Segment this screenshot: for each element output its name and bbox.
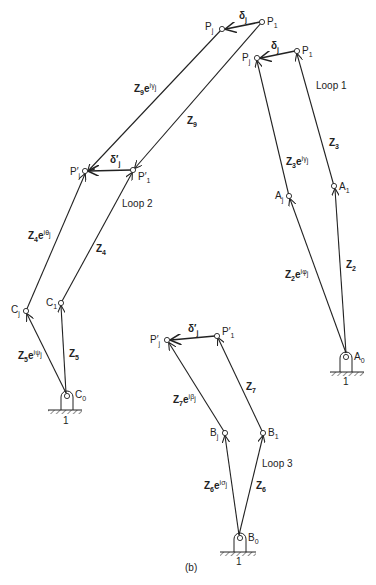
- label-pj-right: Pj: [242, 52, 251, 66]
- loop-1-label: Loop 1: [316, 80, 347, 91]
- joint-cj: [23, 308, 28, 313]
- label-z2: Z2: [346, 259, 356, 272]
- joint-pj-prime-mid: [82, 168, 87, 173]
- label-delta-j-prime-mid: δ′j: [110, 154, 120, 168]
- label-c0: C0: [75, 389, 86, 402]
- label-b1: B1: [268, 427, 279, 440]
- joint-aj: [286, 193, 291, 198]
- label-z7: Z7: [246, 381, 256, 394]
- loop-1-group: [254, 48, 364, 376]
- z4-vector: [61, 173, 132, 303]
- label-a1: A1: [339, 181, 350, 194]
- label-aj: Aj: [275, 190, 284, 204]
- label-z4: Z4: [96, 243, 106, 256]
- label-delta-j-prime-bot: δ′j: [188, 323, 198, 337]
- loop-3-label: Loop 3: [262, 458, 293, 469]
- joint-p1-right: [294, 48, 299, 53]
- label-z7-e-beta: Z7eiβj: [173, 393, 196, 407]
- label-p1-prime-mid: P′1: [138, 171, 151, 184]
- joint-p1-prime-mid: [130, 167, 135, 172]
- label-z3-e-gamma: Z3eiγj: [286, 155, 309, 169]
- label-z6-e-sigma: Z6eiσj: [204, 479, 227, 493]
- label-cj: Cj: [11, 304, 20, 318]
- joint-p1-prime-bot: [214, 333, 219, 338]
- joint-a1: [331, 183, 336, 188]
- label-z2-e-phi: Z2eiφj: [285, 268, 309, 282]
- label-bj: Bj: [210, 427, 219, 441]
- loop-2-label: Loop 2: [122, 198, 153, 209]
- label-c1: C1: [46, 297, 57, 310]
- label-b0: B0: [248, 532, 259, 545]
- z3-vector: [297, 54, 334, 186]
- z9-vector-group: [88, 19, 265, 171]
- figure-caption: (b): [185, 562, 197, 573]
- loop-2-group: [23, 167, 135, 414]
- joint-pj-top: [219, 26, 224, 31]
- delta-j-top-vector: [226, 22, 260, 29]
- ground-labels: 1 1 1: [63, 376, 349, 567]
- delta-j-prime-bot-vector: [171, 336, 215, 340]
- label-pj-prime-mid: P′j: [70, 166, 81, 180]
- label-pj-top: Pj: [205, 21, 214, 35]
- z7-e-beta-vector: [169, 343, 225, 433]
- joint-c1: [58, 300, 63, 305]
- label-p1-top: P1: [267, 16, 278, 29]
- label-z5: Z5: [69, 348, 79, 361]
- label-z9: Z9: [187, 115, 197, 128]
- label-z6: Z6: [256, 480, 266, 493]
- joint-pj-right: [254, 55, 259, 60]
- z9-vector: [135, 22, 262, 168]
- label-a0: A0: [354, 351, 365, 364]
- delta-j-prime-mid-vector: [89, 170, 131, 171]
- z7-vector: [218, 338, 263, 433]
- z6-e-sigma-vector: [225, 436, 239, 535]
- joint-pj-prime-bot: [164, 337, 169, 342]
- ground-label-c0: 1: [63, 415, 69, 426]
- ground-label-a0: 1: [343, 376, 349, 387]
- z5-vector: [61, 306, 66, 393]
- label-p1-right: P1: [302, 45, 313, 58]
- z9-e-gamma-vector: [88, 29, 222, 171]
- ground-label-b0: 1: [236, 556, 242, 567]
- label-p1-prime-bot: P′1: [222, 326, 235, 339]
- label-z5-e-psi: Z5eiψj: [18, 349, 42, 363]
- joint-p1-top: [259, 19, 264, 24]
- label-delta-j-top: δj: [239, 10, 247, 24]
- kinematic-loop-diagram: P1 Pj P1 Pj P′j P′1 Aj A1 A0 Cj C1 C0 P′…: [0, 0, 376, 585]
- label-z9-e-gamma: Z9eiγj: [134, 82, 157, 96]
- loop-3-group: [164, 333, 265, 556]
- label-delta-j-right: δj: [271, 40, 279, 54]
- label-pj-prime-bot: P′j: [150, 334, 161, 348]
- label-z3: Z3: [329, 137, 339, 150]
- joint-b1: [260, 430, 265, 435]
- label-z4-e-theta: Z4eiθj: [28, 229, 51, 243]
- point-labels: P1 Pj P1 Pj P′j P′1 Aj A1 A0 Cj C1 C0 P′…: [11, 16, 365, 545]
- joint-bj: [222, 430, 227, 435]
- z3-e-gamma-vector: [257, 61, 289, 196]
- loop-labels: Loop 1 Loop 2 Loop 3: [122, 80, 347, 469]
